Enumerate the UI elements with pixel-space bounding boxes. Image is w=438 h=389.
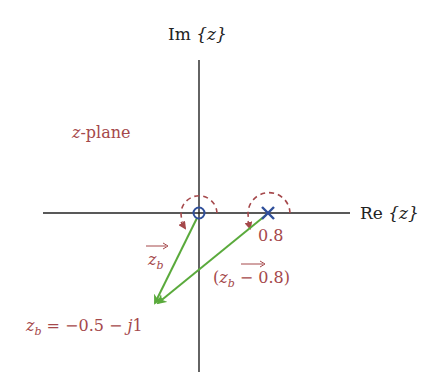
imaginary-axis-label: Im {z}	[168, 24, 227, 44]
im-text: Im	[168, 24, 191, 44]
angle-arc-pole	[248, 193, 290, 220]
plane-text: -plane	[80, 123, 130, 142]
vector-zb-minus-0.8-label: (zb − 0.8)	[213, 268, 290, 290]
vector-zb-label: zb	[148, 250, 163, 272]
zb-sub: b	[156, 259, 163, 272]
re-var: {z}	[388, 203, 419, 223]
pole-value-label: 0.8	[258, 226, 283, 245]
vector-notation: zb	[148, 250, 163, 272]
zb-sub: b	[228, 277, 235, 290]
vector-arrow-icon	[241, 260, 267, 268]
minus-0.8: − 0.8)	[235, 268, 290, 287]
zb-var: z	[219, 268, 227, 287]
re-text: Re	[360, 203, 383, 223]
real-axis-label: Re {z}	[360, 203, 419, 223]
point-zb-label: zb = −0.5 − j1	[26, 316, 143, 338]
point-eq: = −0.5 −	[41, 316, 127, 335]
point-tail: 1	[132, 316, 142, 335]
im-var: {z}	[196, 24, 227, 44]
angle-arc-zero-arrowhead	[181, 222, 185, 228]
vector-arrow-icon	[146, 242, 170, 250]
angle-arc-pole-arrowhead	[248, 221, 250, 228]
z-plane-label: z-plane	[72, 123, 131, 142]
